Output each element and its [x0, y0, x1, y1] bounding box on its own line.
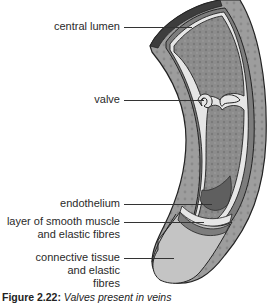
label-smooth-muscle: layer of smooth muscle and elastic fibre… — [7, 215, 120, 241]
figure-caption-text: Valves present in veins — [64, 291, 172, 303]
label-central-lumen: central lumen — [54, 20, 120, 33]
leader-smooth-muscle — [124, 222, 204, 223]
label-valve: valve — [94, 93, 120, 106]
leader-valve — [124, 100, 204, 101]
figure-caption: Figure 2.22: Valves present in veins — [2, 291, 171, 303]
label-connective-tissue: connective tissue and elastic fibres — [36, 251, 120, 290]
leader-central-lumen — [124, 27, 192, 28]
label-endothelium: endothelium — [60, 197, 120, 210]
leader-endothelium — [124, 204, 212, 205]
figure-number: Figure 2.22: — [2, 291, 61, 303]
leader-connective-tissue — [124, 258, 174, 259]
